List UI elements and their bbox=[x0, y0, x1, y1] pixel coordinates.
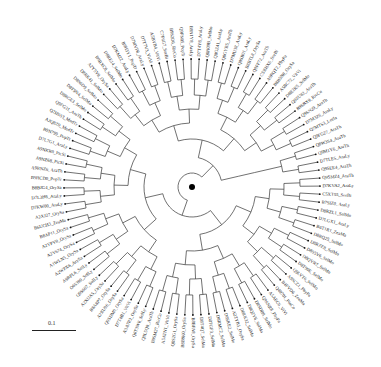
leaf-tip-dot bbox=[319, 177, 321, 179]
leaf-tip-dot bbox=[200, 314, 202, 316]
leaf-tip-dot bbox=[152, 308, 154, 310]
leaf-tip-dot bbox=[69, 147, 71, 149]
leaf-tip-dot bbox=[289, 104, 291, 106]
leaf-label: C5XT55_SorBi bbox=[322, 191, 352, 198]
leaf-label: B9HCD0_PopTr bbox=[31, 175, 63, 182]
leaf-tip-dot bbox=[63, 195, 65, 197]
leaf-tip-dot bbox=[79, 249, 81, 251]
leaf-tip-dot bbox=[266, 82, 268, 84]
leaf-tip-dot bbox=[307, 240, 309, 242]
leaf-tip-dot bbox=[290, 267, 292, 269]
leaf-tip-dot bbox=[79, 125, 81, 127]
leaf-label: D7T4Y8_AraLy bbox=[196, 26, 203, 57]
leaf-tip-dot bbox=[190, 58, 192, 60]
leaf-tip-dot bbox=[97, 99, 99, 101]
leaf-label: D7KW00_AraLy bbox=[31, 201, 64, 210]
leaf-tip-dot bbox=[176, 313, 178, 315]
leaf-tip-dot bbox=[88, 262, 90, 264]
leaf-tip-dot bbox=[224, 310, 226, 312]
leaf-label: A5ATN1_VitVi bbox=[160, 314, 170, 344]
leaf-label: D7TLE5_AraLy bbox=[319, 153, 350, 164]
leaf-tip-dot bbox=[115, 83, 117, 85]
leaf-tip-dot bbox=[160, 310, 162, 312]
leaf-tip-dot bbox=[130, 299, 132, 301]
leaf-tip-dot bbox=[192, 314, 194, 316]
leaf-tip-dot bbox=[64, 203, 66, 205]
leaf-tip-dot bbox=[83, 118, 85, 120]
leaf-tip-dot bbox=[284, 98, 286, 100]
leaf-tip-dot bbox=[232, 308, 234, 310]
leaf-tip-dot bbox=[317, 161, 319, 163]
leaf-tip-dot bbox=[317, 209, 319, 211]
leaf-tip-dot bbox=[300, 254, 302, 256]
leaf-tip-dot bbox=[143, 67, 145, 69]
leaf-tip-dot bbox=[84, 255, 86, 257]
leaf-label: D8TGF3_SelMo bbox=[207, 316, 216, 348]
leaf-tip-dot bbox=[252, 74, 254, 76]
leaf-label: A9NZ68_PicSi bbox=[35, 155, 64, 165]
leaf-tip-dot bbox=[98, 274, 100, 276]
leaf-tip-dot bbox=[239, 305, 241, 307]
leaf-label: B8BPA8_OrySa bbox=[191, 317, 196, 347]
leaf-tip-dot bbox=[245, 70, 247, 72]
leaf-tip-dot bbox=[145, 305, 147, 307]
leaf-tip-dot bbox=[137, 302, 139, 304]
leaf-tip-dot bbox=[136, 71, 138, 73]
leaf-tip-dot bbox=[93, 268, 95, 270]
leaf-label: B9S2D6_RicCo bbox=[169, 28, 178, 59]
root-node bbox=[189, 184, 195, 190]
leaf-tip-dot bbox=[273, 284, 275, 286]
leaf-tip-dot bbox=[92, 105, 94, 107]
leaf-tip-dot bbox=[279, 279, 281, 281]
leaf-tip-dot bbox=[206, 59, 208, 61]
leaf-tip-dot bbox=[208, 313, 210, 315]
leaf-tip-dot bbox=[299, 117, 301, 119]
leaf-tip-dot bbox=[315, 153, 317, 155]
leaf-label: Q9FN05_PopTr bbox=[179, 27, 186, 57]
scale-bar-label: 0.1 bbox=[48, 320, 56, 326]
leaf-tip-dot bbox=[216, 312, 218, 314]
leaf-tip-dot bbox=[313, 146, 315, 148]
leaf-tip-dot bbox=[158, 62, 160, 64]
leaf-tip-dot bbox=[67, 219, 69, 221]
leaf-tip-dot bbox=[318, 169, 320, 171]
leaf-tip-dot bbox=[109, 88, 111, 90]
leaf-label: B8B9K0_OrySa bbox=[180, 317, 187, 348]
scale-bar bbox=[32, 330, 76, 331]
leaf-tip-dot bbox=[64, 171, 66, 173]
leaf-tip-dot bbox=[295, 261, 297, 263]
leaf-tip-dot bbox=[174, 59, 176, 61]
leaf-label: A9RNZ6_AraTh bbox=[31, 165, 63, 174]
leaf-tip-dot bbox=[319, 193, 321, 195]
leaf-tip-dot bbox=[67, 155, 69, 157]
leaf-tip-dot bbox=[70, 227, 72, 229]
leaf-tip-dot bbox=[72, 140, 74, 142]
leaf-tip-dot bbox=[303, 124, 305, 126]
leaf-tip-dot bbox=[319, 185, 321, 187]
leaf-tip-dot bbox=[254, 298, 256, 300]
leaf-tip-dot bbox=[272, 87, 274, 89]
leaf-tip-dot bbox=[310, 138, 312, 140]
leaf-tip-dot bbox=[117, 290, 119, 292]
leaf-tip-dot bbox=[63, 187, 65, 189]
leaf-tip-dot bbox=[294, 110, 296, 112]
leaf-label: B7SIZ0_AraLy bbox=[321, 200, 351, 208]
leaf-tip-dot bbox=[122, 79, 124, 81]
leaf-tip-dot bbox=[103, 93, 105, 95]
leaf-tip-dot bbox=[237, 67, 239, 69]
leaf-label: Q9SMZ4_AraTh bbox=[322, 173, 355, 180]
leaf-tip-dot bbox=[104, 280, 106, 282]
leaf-label: Q9SEE4_AraTh bbox=[321, 163, 352, 172]
leaf-tip-dot bbox=[87, 112, 89, 114]
leaf-tip-dot bbox=[285, 273, 287, 275]
leaf-tip-dot bbox=[315, 217, 317, 219]
leaf-tip-dot bbox=[304, 247, 306, 249]
leaf-label: D7KVA2_AraLy bbox=[322, 183, 354, 188]
leaf-label: B9N1Y8_AraLy bbox=[189, 26, 194, 57]
leaf-tip-dot bbox=[318, 201, 320, 203]
leaf-tip-dot bbox=[259, 78, 261, 80]
leaf-tip-dot bbox=[110, 285, 112, 287]
leaf-tip-dot bbox=[214, 60, 216, 62]
leaf-tip-dot bbox=[123, 295, 125, 297]
phylogenetic-tree: Q9SMZ4_AraThD7KVA2_AraLyC5XT55_SorBiB7SI… bbox=[0, 0, 381, 367]
